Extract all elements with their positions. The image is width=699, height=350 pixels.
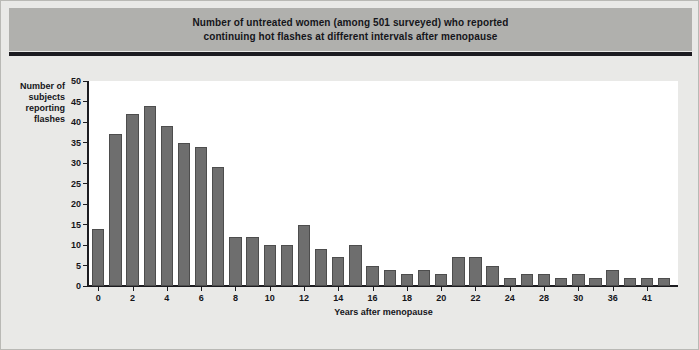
y-axis-tick: 10	[71, 240, 87, 250]
y-axis-tick-mark	[83, 183, 87, 184]
bars-layer	[89, 81, 678, 286]
y-axis-tick: 15	[71, 220, 87, 230]
bar	[589, 278, 601, 286]
x-axis-tick-mark	[98, 287, 99, 291]
plot-region: Number of subjects reporting flashes 051…	[1, 57, 699, 350]
y-axis-tick-label: 35	[71, 138, 83, 148]
x-axis-tick-label: 10	[265, 293, 275, 303]
y-axis-tick-label: 30	[71, 158, 83, 168]
x-axis-tick-mark	[613, 287, 614, 291]
y-axis-tick-mark	[83, 142, 87, 143]
y-axis-title-line-2: subjects	[3, 92, 65, 103]
title-divider-rule	[9, 52, 692, 56]
bar	[401, 274, 413, 286]
y-axis-title-line-1: Number of	[3, 81, 65, 92]
bar	[349, 245, 361, 286]
bar	[641, 278, 653, 286]
y-axis-tick: 0	[76, 281, 87, 291]
x-axis-tick-mark	[235, 287, 236, 291]
x-axis-tick-label: 22	[470, 293, 480, 303]
y-axis-tick-label: 45	[71, 97, 83, 107]
y-axis-tick-mark	[83, 286, 87, 287]
bar	[658, 278, 670, 286]
y-axis-tick-mark	[83, 101, 87, 102]
x-axis-tick-label: 41	[642, 293, 652, 303]
x-axis-tick-mark	[544, 287, 545, 291]
x-axis-tick-mark	[338, 287, 339, 291]
chart-figure: Number of untreated women (among 501 sur…	[0, 0, 699, 350]
bar	[606, 270, 618, 286]
y-axis-title: Number of subjects reporting flashes	[3, 81, 65, 125]
x-axis-tick-mark	[373, 287, 374, 291]
bar	[281, 245, 293, 286]
x-axis-tick-label: 0	[96, 293, 101, 303]
x-axis-tick-mark	[407, 287, 408, 291]
x-axis-tick-mark	[578, 287, 579, 291]
bar	[332, 257, 344, 286]
bar	[92, 229, 104, 286]
y-axis-tick-label: 50	[71, 76, 83, 86]
y-axis-tick-label: 25	[71, 179, 83, 189]
y-axis-tick-label: 40	[71, 117, 83, 127]
bar	[538, 274, 550, 286]
x-axis-tick-label: 24	[505, 293, 515, 303]
bar	[315, 249, 327, 286]
x-axis-tick-mark	[441, 287, 442, 291]
bar	[469, 257, 481, 286]
bar	[195, 147, 207, 286]
x-axis-tick-label: 8	[233, 293, 238, 303]
y-axis-tick-mark	[83, 204, 87, 205]
y-axis-tick-label: 5	[76, 261, 83, 271]
bar	[264, 245, 276, 286]
bar	[572, 274, 584, 286]
x-axis-tick-mark	[304, 287, 305, 291]
bar	[452, 257, 464, 286]
y-axis-tick-label: 10	[71, 240, 83, 250]
y-axis-tick-label: 20	[71, 199, 83, 209]
x-axis-tick-mark	[475, 287, 476, 291]
bar	[161, 126, 173, 286]
x-axis-tick-mark	[133, 287, 134, 291]
bar	[486, 266, 498, 287]
x-axis-tick-label: 16	[368, 293, 378, 303]
bar	[384, 270, 396, 286]
x-axis-tick-label: 14	[333, 293, 343, 303]
x-axis-tick-mark	[167, 287, 168, 291]
y-axis-tick-mark	[83, 245, 87, 246]
x-axis-title: Years after menopause	[89, 307, 678, 317]
bar	[212, 167, 224, 286]
y-axis-tick: 45	[71, 97, 87, 107]
x-axis-tick-label: 12	[299, 293, 309, 303]
x-axis-tick-label: 2	[130, 293, 135, 303]
x-axis-tick-label: 36	[608, 293, 618, 303]
bar	[229, 237, 241, 286]
bar	[298, 225, 310, 287]
y-axis-tick: 30	[71, 158, 87, 168]
y-axis-tick-mark	[83, 163, 87, 164]
bar	[178, 143, 190, 287]
chart-title: Number of untreated women (among 501 sur…	[193, 16, 509, 44]
bar	[418, 270, 430, 286]
bar	[126, 114, 138, 286]
bar	[555, 278, 567, 286]
bar	[366, 266, 378, 287]
y-axis-tick-mark	[83, 122, 87, 123]
bar	[144, 106, 156, 286]
x-axis-tick-label: 6	[199, 293, 204, 303]
x-axis-tick-mark	[201, 287, 202, 291]
x-axis-tick-label: 30	[573, 293, 583, 303]
y-axis-tick-label: 0	[76, 281, 83, 291]
y-axis-tick: 40	[71, 117, 87, 127]
x-axis-tick-mark	[510, 287, 511, 291]
x-axis-tick-label: 4	[164, 293, 169, 303]
bar	[521, 274, 533, 286]
x-axis-tick-mark	[270, 287, 271, 291]
y-axis-tick-mark	[83, 81, 87, 82]
y-axis-tick: 20	[71, 199, 87, 209]
bar	[109, 134, 121, 286]
y-axis-title-line-4: flashes	[3, 114, 65, 125]
y-axis-tick: 25	[71, 179, 87, 189]
x-axis-tick-label: 20	[436, 293, 446, 303]
chart-title-banner: Number of untreated women (among 501 sur…	[9, 8, 692, 51]
y-axis-tick-label: 15	[71, 220, 83, 230]
